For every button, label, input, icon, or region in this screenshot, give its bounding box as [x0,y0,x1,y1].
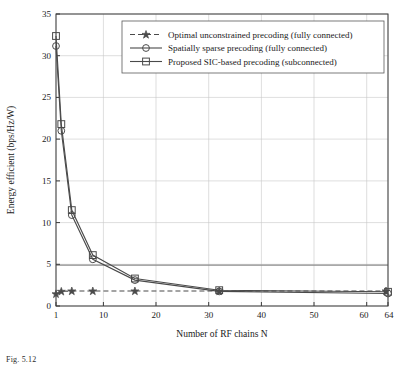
y-tick-label: 15 [42,176,52,186]
y-tick-label: 10 [42,218,52,228]
x-tick-label: 20 [152,310,162,320]
x-axis-title: Number of RF chains N [176,329,267,339]
y-tick-label: 30 [42,51,52,61]
y-axis-title: Energy efficient (bps/Hz/W) [6,106,17,214]
x-tick-label: 60 [360,310,370,320]
legend-label: Spatially sparse precoding (fully connec… [168,43,327,53]
y-tick-label: 25 [42,92,52,102]
energy-efficiency-chart: 0 5 10 15 20 25 30 35 1 10 20 30 40 50 [0,0,409,365]
figure-caption: Fig. 5.12 [6,355,36,364]
figure-container: 0 5 10 15 20 25 30 35 1 10 20 30 40 50 [0,0,409,365]
x-axis-tick-labels: 1 10 20 30 40 50 60 64 [54,310,394,320]
x-tick-label: 40 [257,310,267,320]
legend-label: Proposed SIC-based precoding (subconnect… [168,57,337,67]
x-tick-label: 1 [54,310,59,320]
y-tick-label: 20 [42,134,52,144]
legend-label: Optimal unconstrained precoding (fully c… [168,30,352,40]
x-tick-label: 30 [204,310,214,320]
y-tick-label: 5 [47,259,52,269]
x-tick-label: 10 [99,310,109,320]
y-axis-tick-labels: 0 5 10 15 20 25 30 35 [42,9,52,311]
x-tick-label: 50 [310,310,320,320]
x-tick-label: 64 [385,310,395,320]
y-tick-label: 35 [42,9,52,19]
y-tick-label: 0 [47,301,52,311]
chart-legend: Optimal unconstrained precoding (fully c… [122,21,384,73]
